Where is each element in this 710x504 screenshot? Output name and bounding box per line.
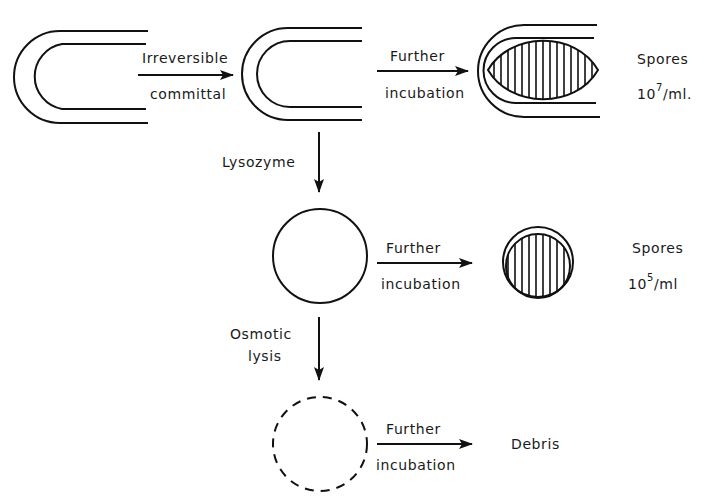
- lysozyme-label: Lysozyme: [222, 154, 295, 170]
- lysozyme-arrow: Lysozyme: [222, 132, 319, 192]
- osmotic-label-line1: Osmotic: [230, 326, 292, 342]
- incubation-bottom-line2: incubation: [376, 457, 456, 473]
- outcome-middle-label: Spores: [632, 240, 683, 256]
- protoplast-icon: [273, 209, 367, 303]
- incubation-middle-line1: Further: [386, 240, 441, 256]
- sporulation-diagram: Irreversible committal Further incubatio…: [0, 0, 710, 504]
- outcome-top-label: Spores: [637, 51, 688, 67]
- protoplast-spore-icon: [503, 225, 573, 305]
- initial-cell-icon: [14, 31, 148, 123]
- committal-label-line2: committal: [150, 86, 226, 102]
- forespore-hatching: [494, 30, 592, 110]
- committal-label-line1: Irreversible: [142, 50, 228, 66]
- committal-arrow: Irreversible committal: [138, 50, 233, 102]
- osmotic-lysis-arrow: Osmotic lysis: [230, 317, 319, 380]
- outcome-top-concentration: 107/ml.: [637, 82, 692, 102]
- outcome-bottom-label: Debris: [511, 436, 560, 452]
- outcome-top: Spores 107/ml.: [637, 51, 692, 102]
- incubation-top-line1: Further: [390, 48, 445, 64]
- incubation-middle-line2: incubation: [381, 276, 461, 292]
- incubation-arrow-middle: Further incubation: [377, 240, 472, 292]
- osmotic-label-line2: lysis: [248, 348, 282, 364]
- lysed-protoplast-icon: [273, 397, 367, 491]
- committed-cell-icon: [242, 28, 362, 120]
- incubation-arrow-top: Further incubation: [377, 48, 468, 101]
- incubation-bottom-line1: Further: [386, 421, 441, 437]
- outcome-middle: Spores 105/ml: [628, 240, 683, 292]
- incubation-arrow-bottom: Further incubation: [376, 421, 472, 473]
- incubation-top-line2: incubation: [385, 85, 465, 101]
- cell-with-spore-icon: [478, 25, 600, 117]
- outcome-middle-concentration: 105/ml: [628, 272, 678, 292]
